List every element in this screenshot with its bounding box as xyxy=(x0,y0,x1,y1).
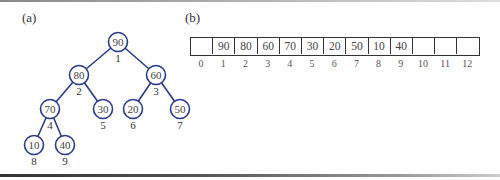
node-index: 4 xyxy=(47,119,53,131)
array-index: 7 xyxy=(345,58,367,69)
array-index: 9 xyxy=(390,58,412,69)
tree-node: 802 xyxy=(70,66,89,97)
array-cell xyxy=(435,38,457,54)
tree-node: 603 xyxy=(147,66,166,97)
array-cell xyxy=(413,38,435,54)
array-cell xyxy=(191,38,213,54)
array-cell: 30 xyxy=(302,38,324,54)
array-index: 2 xyxy=(234,58,256,69)
array-indices: 0123456789101112 xyxy=(190,58,478,69)
node-index: 8 xyxy=(31,155,37,167)
array-index: 5 xyxy=(301,58,323,69)
array-index: 3 xyxy=(257,58,279,69)
array-cell: 40 xyxy=(391,38,413,54)
node-value: 30 xyxy=(98,103,110,115)
array-index: 10 xyxy=(412,58,434,69)
array-cell: 60 xyxy=(258,38,280,54)
array-cell xyxy=(457,38,479,54)
node-value: 90 xyxy=(113,36,125,48)
node-index: 9 xyxy=(62,155,68,167)
array-index: 8 xyxy=(368,58,390,69)
array-cell: 90 xyxy=(213,38,235,54)
node-value: 40 xyxy=(60,139,72,151)
tree-node: 901 xyxy=(109,33,128,64)
array-index: 1 xyxy=(212,58,234,69)
node-value: 10 xyxy=(29,139,41,151)
array-cell: 70 xyxy=(280,38,302,54)
array-cell: 20 xyxy=(324,38,346,54)
tree-node: 305 xyxy=(94,100,113,131)
heap-tree: 901802603704305206507108409 xyxy=(0,0,500,180)
array-cell: 80 xyxy=(235,38,257,54)
array-index: 0 xyxy=(190,58,212,69)
node-index: 3 xyxy=(153,85,159,97)
tree-node: 507 xyxy=(171,100,190,131)
node-value: 50 xyxy=(175,103,187,115)
array-index: 12 xyxy=(456,58,478,69)
array-cell: 50 xyxy=(346,38,368,54)
tree-node: 108 xyxy=(25,136,44,167)
node-value: 20 xyxy=(128,103,140,115)
array-index: 6 xyxy=(323,58,345,69)
tree-node: 409 xyxy=(56,136,75,167)
node-index: 7 xyxy=(177,119,183,131)
heap-array: 908060703020501040 xyxy=(190,37,480,56)
node-index: 1 xyxy=(115,52,121,64)
node-value: 80 xyxy=(74,69,86,81)
array-cell: 10 xyxy=(369,38,391,54)
array-index: 11 xyxy=(434,58,456,69)
node-index: 5 xyxy=(100,119,106,131)
array-index: 4 xyxy=(279,58,301,69)
node-value: 70 xyxy=(45,103,57,115)
node-value: 60 xyxy=(151,69,163,81)
node-index: 2 xyxy=(76,85,82,97)
node-index: 6 xyxy=(130,119,136,131)
tree-node: 206 xyxy=(124,100,143,131)
